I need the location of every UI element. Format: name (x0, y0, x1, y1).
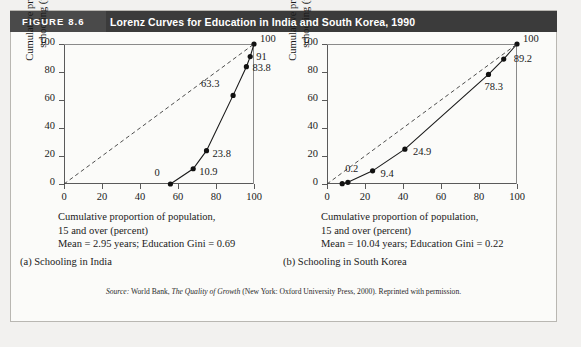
y-tick-label-korea-60: 60 (308, 92, 319, 103)
source-prefix: Source: (106, 287, 129, 296)
x-tick-label-korea-80: 80 (474, 191, 485, 202)
data-point-korea-5 (501, 57, 506, 62)
x-tick-india-40 (140, 184, 141, 189)
y-tick-label-korea-40: 40 (308, 120, 319, 131)
x-axis-label-korea-line2: 15 and over (percent) (321, 224, 549, 238)
point-value-label-india-10.9: 10.9 (199, 166, 217, 177)
x-tick-label-korea-0: 0 (324, 191, 329, 202)
data-point-india-4 (244, 64, 249, 69)
source-details: (New York: Oxford University Press, 2000… (242, 287, 461, 296)
y-tick-label-korea-20: 20 (308, 148, 319, 159)
series-line-india-lorenz (170, 44, 254, 184)
plot-area-south-korea: Cumulative proportion of schooling (perc… (281, 38, 549, 200)
y-tick-label-india-40: 40 (45, 120, 56, 131)
point-value-label-india-100: 100 (260, 33, 276, 44)
x-tick-india-20 (102, 184, 103, 189)
data-point-korea-2 (370, 168, 375, 173)
y-axis-label-korea-line2: schooling (percent) (300, 0, 316, 62)
series-line-india-equality (64, 44, 254, 184)
y-tick-label-korea-100: 100 (302, 36, 318, 47)
point-value-label-korea-89.2: 89.2 (514, 53, 532, 64)
y-tick-korea-20: 20 (322, 156, 327, 157)
x-tick-korea-80 (479, 184, 480, 189)
data-point-india-3 (231, 93, 236, 98)
x-axis-label-korea-line1: Cumulative proportion of population, (321, 210, 549, 224)
axes-india: 020406080100020406080100010.923.863.383.… (64, 44, 254, 184)
y-tick-label-india-100: 100 (39, 36, 55, 47)
x-tick-korea-60 (441, 184, 442, 189)
y-tick-label-korea-0: 0 (313, 176, 318, 187)
x-tick-korea-40 (403, 184, 404, 189)
y-tick-india-40: 40 (59, 128, 64, 129)
y-tick-india-60: 60 (59, 100, 64, 101)
x-tick-label-korea-100: 100 (509, 191, 525, 202)
figure-number: FIGURE 8.6 (22, 16, 102, 27)
x-tick-label-india-0: 0 (61, 191, 66, 202)
x-axis-caption-korea: Cumulative proportion of population, 15 … (321, 210, 549, 251)
point-value-label-india-63.3: 63.3 (201, 78, 219, 89)
point-value-label-india-0: 0 (154, 167, 159, 178)
x-tick-label-india-80: 80 (211, 191, 222, 202)
stats-note-korea: Mean = 10.04 years; Education Gini = 0.2… (321, 237, 549, 251)
y-tick-india-20: 20 (59, 156, 64, 157)
data-point-india-2 (204, 148, 209, 153)
point-value-label-india-23.8: 23.8 (213, 148, 231, 159)
x-tick-label-india-40: 40 (135, 191, 146, 202)
x-tick-india-60 (178, 184, 179, 189)
x-tick-label-india-60: 60 (173, 191, 184, 202)
source-publisher: World Bank, (131, 287, 170, 296)
data-point-korea-1 (345, 180, 350, 185)
source-book-title: The Quality of Growth (172, 287, 241, 296)
x-tick-label-korea-40: 40 (398, 191, 409, 202)
data-point-india-5 (248, 54, 253, 59)
y-tick-label-india-60: 60 (45, 92, 56, 103)
y-tick-korea-40: 40 (322, 128, 327, 129)
y-tick-india-80: 80 (59, 72, 64, 73)
x-tick-korea-0 (327, 184, 328, 189)
x-axis-caption-india: Cumulative proportion of population, 15 … (58, 210, 286, 251)
stats-note-india: Mean = 2.95 years; Education Gini = 0.69 (58, 237, 286, 251)
y-tick-india-100: 100 (59, 44, 64, 45)
data-point-korea-0 (340, 181, 345, 186)
x-tick-india-80 (216, 184, 217, 189)
y-tick-label-india-20: 20 (45, 148, 56, 159)
point-value-label-korea-78.3: 78.3 (485, 81, 503, 92)
figure-title: Lorenz Curves for Education in India and… (110, 16, 415, 28)
source-note: Source: World Bank, The Quality of Growt… (10, 287, 557, 296)
data-point-india-0 (168, 181, 173, 186)
y-tick-label-india-0: 0 (50, 176, 55, 187)
x-tick-india-100 (254, 184, 255, 189)
plot-area-india: Cumulative proportion of schooling (perc… (18, 38, 286, 200)
chart-panels: Cumulative proportion of schooling (perc… (10, 34, 557, 278)
x-axis-label-india-line2: 15 and over (percent) (58, 224, 286, 238)
y-axis-label-india-line2: schooling (percent) (37, 0, 53, 62)
data-point-india-1 (191, 166, 196, 171)
y-tick-korea-100: 100 (322, 44, 327, 45)
y-tick-label-india-80: 80 (45, 64, 56, 75)
point-value-label-korea-0.2: 0.2 (345, 163, 358, 174)
axes-south-korea: 0204060801000204060801000.29.424.978.389… (327, 44, 517, 184)
x-axis-label-india-line1: Cumulative proportion of population, (58, 210, 286, 224)
point-value-label-korea-100: 100 (523, 33, 539, 44)
panel-label-india: (a) Schooling in India (20, 256, 112, 267)
lorenz-curve-svg-india (64, 44, 254, 184)
data-point-korea-3 (402, 147, 407, 152)
y-tick-korea-80: 80 (322, 72, 327, 73)
x-tick-label-india-100: 100 (246, 191, 262, 202)
point-value-label-korea-24.9: 24.9 (413, 146, 431, 157)
y-tick-label-korea-80: 80 (308, 64, 319, 75)
point-value-label-india-83.8: 83.8 (252, 62, 270, 73)
data-point-korea-4 (486, 72, 491, 77)
point-value-label-india-91: 91 (256, 51, 267, 62)
x-tick-label-korea-60: 60 (436, 191, 447, 202)
y-tick-korea-60: 60 (322, 100, 327, 101)
x-tick-label-india-20: 20 (97, 191, 108, 202)
figure-header-bar: FIGURE 8.6 Lorenz Curves for Education i… (10, 11, 557, 32)
chart-panel-india: Cumulative proportion of schooling (perc… (18, 34, 286, 278)
x-tick-korea-20 (365, 184, 366, 189)
point-value-label-korea-9.4: 9.4 (381, 168, 394, 179)
panel-label-korea: (b) Schooling in South Korea (283, 256, 407, 267)
chart-panel-south-korea: Cumulative proportion of schooling (perc… (281, 34, 549, 278)
series-line-korea-lorenz (342, 44, 517, 184)
x-tick-india-0 (64, 184, 65, 189)
